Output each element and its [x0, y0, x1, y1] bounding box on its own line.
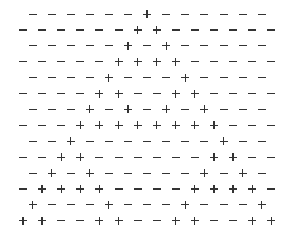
minus-sign-icon [246, 151, 258, 163]
minus-sign-icon [46, 135, 58, 147]
minus-sign-icon [151, 151, 163, 163]
minus-sign-icon [55, 215, 67, 227]
plus-sign-icon [36, 183, 48, 195]
minus-sign-icon [17, 119, 29, 131]
minus-sign-icon [160, 8, 172, 20]
minus-sign-icon [36, 88, 48, 100]
minus-sign-icon [27, 8, 39, 20]
plus-sign-icon [160, 103, 172, 115]
minus-sign-icon [265, 119, 277, 131]
minus-sign-icon [103, 40, 115, 52]
plus-sign-icon [132, 119, 144, 131]
minus-sign-icon [256, 167, 268, 179]
plus-sign-icon [93, 215, 105, 227]
minus-sign-icon [189, 151, 201, 163]
minus-sign-icon [46, 72, 58, 84]
minus-sign-icon [265, 151, 277, 163]
minus-sign-icon [27, 167, 39, 179]
plus-sign-icon [170, 119, 182, 131]
plus-sign-icon [227, 183, 239, 195]
minus-sign-icon [141, 103, 153, 115]
minus-sign-icon [265, 56, 277, 68]
minus-sign-icon [74, 215, 86, 227]
minus-sign-icon [218, 8, 230, 20]
minus-sign-icon [141, 40, 153, 52]
minus-sign-icon [74, 24, 86, 36]
minus-sign-icon [198, 40, 210, 52]
minus-sign-icon [84, 199, 96, 211]
minus-sign-icon [46, 40, 58, 52]
minus-sign-icon [122, 199, 134, 211]
minus-sign-icon [141, 199, 153, 211]
minus-sign-icon [256, 8, 268, 20]
plus-sign-icon [113, 215, 125, 227]
minus-sign-icon [246, 119, 258, 131]
minus-sign-icon [17, 24, 29, 36]
minus-sign-icon [218, 103, 230, 115]
minus-sign-icon [170, 24, 182, 36]
plus-sign-icon [151, 119, 163, 131]
minus-sign-icon [103, 103, 115, 115]
minus-sign-icon [103, 167, 115, 179]
minus-sign-icon [46, 199, 58, 211]
plus-sign-icon [189, 215, 201, 227]
minus-sign-icon [170, 183, 182, 195]
minus-sign-icon [65, 40, 77, 52]
minus-sign-icon [84, 8, 96, 20]
plus-sign-icon [265, 215, 277, 227]
minus-sign-icon [198, 199, 210, 211]
minus-sign-icon [84, 72, 96, 84]
plus-sign-icon [55, 151, 67, 163]
minus-sign-icon [227, 56, 239, 68]
plus-sign-icon [27, 199, 39, 211]
plus-sign-icon [246, 215, 258, 227]
plus-sign-icon [189, 183, 201, 195]
plus-sign-icon [208, 151, 220, 163]
plus-sign-icon [74, 151, 86, 163]
minus-sign-icon [160, 135, 172, 147]
minus-sign-icon [246, 56, 258, 68]
plus-sign-icon [103, 72, 115, 84]
minus-sign-icon [160, 199, 172, 211]
minus-sign-icon [256, 40, 268, 52]
plus-sign-icon [246, 183, 258, 195]
minus-sign-icon [17, 88, 29, 100]
plus-sign-icon [55, 183, 67, 195]
plus-sign-icon [198, 103, 210, 115]
plus-sign-icon [17, 215, 29, 227]
minus-sign-icon [198, 8, 210, 20]
minus-sign-icon [170, 151, 182, 163]
minus-sign-icon [237, 8, 249, 20]
minus-sign-icon [132, 151, 144, 163]
minus-sign-icon [218, 40, 230, 52]
minus-sign-icon [246, 24, 258, 36]
minus-sign-icon [198, 135, 210, 147]
minus-sign-icon [93, 151, 105, 163]
plus-sign-icon [189, 119, 201, 131]
minus-sign-icon [93, 56, 105, 68]
minus-sign-icon [55, 56, 67, 68]
plus-sign-icon [65, 135, 77, 147]
minus-sign-icon [141, 135, 153, 147]
plus-sign-icon [179, 72, 191, 84]
plus-sign-icon [151, 24, 163, 36]
minus-sign-icon [55, 88, 67, 100]
minus-sign-icon [84, 135, 96, 147]
plus-sign-icon [113, 119, 125, 131]
minus-sign-icon [17, 151, 29, 163]
minus-sign-icon [27, 72, 39, 84]
plus-minus-pattern-grid [0, 0, 291, 237]
minus-sign-icon [132, 215, 144, 227]
minus-sign-icon [84, 40, 96, 52]
plus-sign-icon [93, 88, 105, 100]
plus-sign-icon [237, 167, 249, 179]
plus-sign-icon [151, 56, 163, 68]
minus-sign-icon [46, 103, 58, 115]
plus-sign-icon [141, 8, 153, 20]
minus-sign-icon [179, 8, 191, 20]
minus-sign-icon [113, 183, 125, 195]
plus-sign-icon [170, 56, 182, 68]
plus-sign-icon [84, 167, 96, 179]
minus-sign-icon [113, 24, 125, 36]
minus-sign-icon [237, 135, 249, 147]
